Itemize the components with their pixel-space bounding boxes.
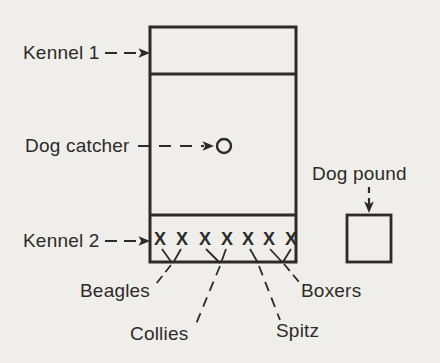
label-boxers: Boxers [301,281,361,300]
collies-connector-tail [196,266,220,324]
figure-canvas: Kennel 1 Dog catcher Kennel 2 Dog pound … [0,0,440,363]
label-beagles: Beagles [80,281,150,300]
label-spitz: Spitz [276,321,319,340]
boxers-connector-x6 [270,249,282,262]
beagles-connector-tail [156,265,171,284]
label-kennel-1: Kennel 1 [23,43,100,62]
label-dog-pound: Dog pound [312,164,407,183]
spitz-connector-tail [259,266,280,320]
label-kennel-2: Kennel 2 [23,231,100,250]
dog-mark-6: X [263,230,275,248]
boxers-connector-tail [284,264,299,282]
dog-mark-5: X [242,230,254,248]
dog-mark-1: X [154,230,166,248]
dog-catcher-marker [217,139,231,153]
boxers-connector-x7 [283,249,291,262]
kennel1-arrowhead-icon [139,48,151,58]
dog-mark-4: X [221,230,233,248]
dog-catcher-arrowhead-icon [203,141,215,151]
dog-pound-square [347,215,391,262]
dog-mark-3: X [199,230,211,248]
label-collies: Collies [130,324,188,343]
pen-rectangle [150,27,296,262]
dog-mark-7: X [285,230,297,248]
dog-mark-2: X [176,230,188,248]
kennel2-arrowhead-icon [139,236,151,246]
label-dog-catcher: Dog catcher [25,136,130,155]
